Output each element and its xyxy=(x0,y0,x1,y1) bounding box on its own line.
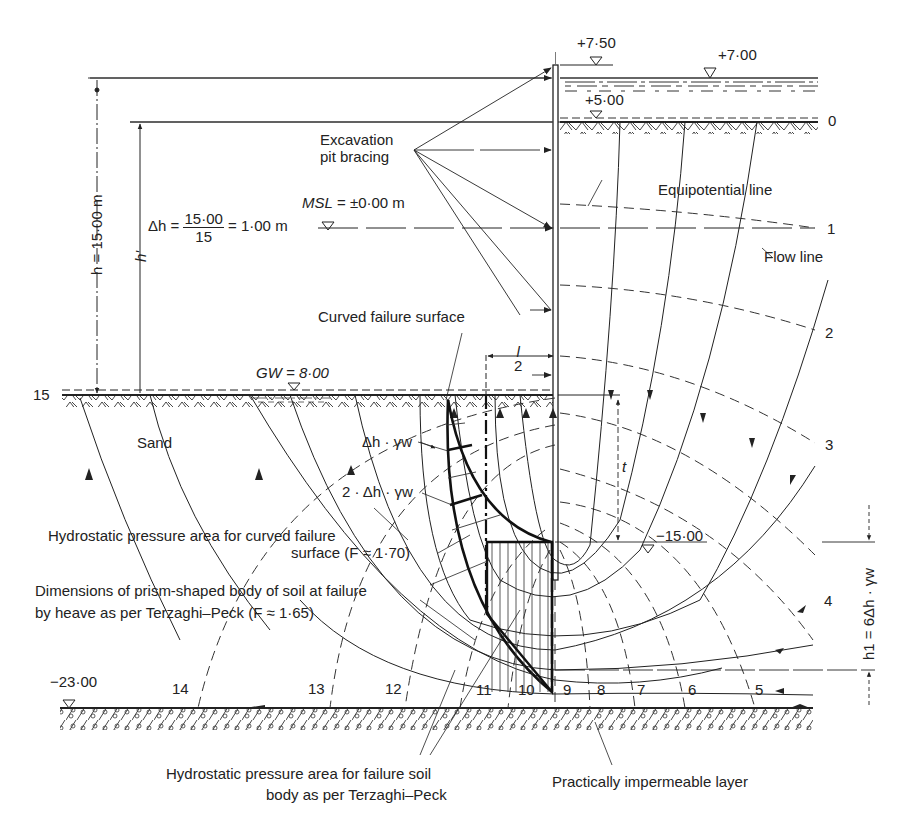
prism-dimensions-label: Dimensions of prism-shaped body of soil … xyxy=(35,580,367,624)
delta-h-numerator: 15·00 xyxy=(183,210,223,228)
l-over-2-label: l 2 xyxy=(514,345,522,373)
top-dimension-lines xyxy=(90,78,552,122)
elevation-ground-outside: +5·00 xyxy=(585,91,624,108)
annotation-leaders xyxy=(374,180,773,765)
ground-outside xyxy=(130,122,818,134)
equipotential-number-14: 14 xyxy=(172,680,189,697)
equipotential-line-label: Equipotential line xyxy=(658,181,772,198)
t-dimension-label: t xyxy=(622,458,626,475)
elevation-wall-top: +7·50 xyxy=(577,34,616,51)
delta-h-denominator: 15 xyxy=(183,228,223,245)
excavation-bracing-label: Excavation pit bracing xyxy=(320,131,393,165)
excavation-ground xyxy=(62,390,620,407)
t-dimension xyxy=(555,400,707,542)
h-total-label: h = 15·00 m xyxy=(88,195,105,275)
hydrostatic-curved-line1: Hydrostatic pressure area for curved fai… xyxy=(48,527,336,544)
sheet-pile-wall xyxy=(553,52,558,580)
equipotential-number-4: 4 xyxy=(824,592,832,609)
equipotential-number-15: 15 xyxy=(33,386,50,403)
h1-label: h1 = 6Δh · γw xyxy=(860,568,877,660)
elevation-wall-toe: −15·00 xyxy=(656,527,703,544)
msl-italic: MSL xyxy=(302,194,333,211)
msl-value: = ±0·00 m xyxy=(333,194,405,211)
hydrostatic-curved-label: Hydrostatic pressure area for curved fai… xyxy=(48,527,410,561)
flow-net-diagram xyxy=(0,0,900,824)
hydrostatic-terzaghi-label: Hydrostatic pressure area for failure so… xyxy=(166,763,447,805)
equipotential-number-7: 7 xyxy=(637,681,645,698)
delta-h-fraction: 15·00 15 xyxy=(183,210,223,245)
impermeable-layer-label: Practically impermeable layer xyxy=(552,773,748,790)
equipotential-number-0: 0 xyxy=(828,112,836,129)
equipotential-number-13: 13 xyxy=(308,680,325,697)
prism-dimensions-line1: Dimensions of prism-shaped body of soil … xyxy=(35,582,367,599)
equipotential-number-9: 9 xyxy=(563,681,571,698)
flow-line-label: Flow line xyxy=(764,248,823,265)
h-prime-label: h' xyxy=(132,251,149,262)
hydrostatic-terzaghi-line2: body as per Terzaghi–Peck xyxy=(166,786,447,803)
excavation-bracing-line1: Excavation xyxy=(320,131,393,148)
equipotential-number-10: 10 xyxy=(518,681,535,698)
gw-label: GW = 8·00 xyxy=(256,364,329,381)
hydrostatic-curved-line2: surface (F ≈ 1·70) xyxy=(48,544,410,561)
impermeable-layer xyxy=(60,704,813,730)
elevation-water-outside: +7·00 xyxy=(718,46,757,63)
l-denominator: 2 xyxy=(514,357,522,374)
delta-h-lhs: Δh = xyxy=(148,217,179,234)
dh-gamma-w-label: Δh · γw xyxy=(362,433,412,450)
equipotential-number-11: 11 xyxy=(476,681,492,698)
equipotential-number-3: 3 xyxy=(825,436,833,453)
delta-h-rhs: = 1·00 m xyxy=(228,217,288,234)
elevation-impermeable: −23·00 xyxy=(50,673,97,690)
equipotential-number-12: 12 xyxy=(385,680,402,697)
sand-label: Sand xyxy=(137,434,172,451)
excavation-bracing-line2: pit bracing xyxy=(320,148,389,165)
prism-dimensions-line2: by heave as per Terzaghi–Peck (F ≈ 1·65) xyxy=(35,604,314,621)
delta-h-formula: Δh = 15·00 15 = 1·00 m xyxy=(148,210,288,245)
equipotential-number-5: 5 xyxy=(755,681,763,698)
equipotential-number-6: 6 xyxy=(688,681,696,698)
curved-failure-surface-label: Curved failure surface xyxy=(318,308,465,325)
two-dh-gamma-w-label: 2 · Δh · γw xyxy=(342,483,413,500)
hydrostatic-terzaghi-line1: Hydrostatic pressure area for failure so… xyxy=(166,765,431,782)
msl-label: MSL = ±0·00 m xyxy=(302,194,405,211)
equipotential-number-2: 2 xyxy=(825,324,833,341)
equipotential-number-1: 1 xyxy=(827,220,835,237)
equipotential-number-8: 8 xyxy=(597,681,605,698)
